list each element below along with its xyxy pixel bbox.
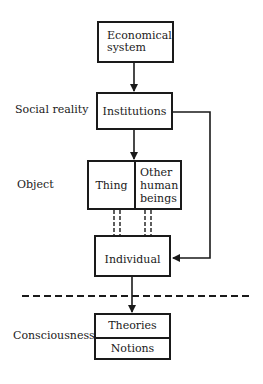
node-individual-label: Individual <box>96 254 169 266</box>
layer-label-consciousness: Consciousness <box>13 329 95 342</box>
node-consciousness-divider <box>96 337 169 339</box>
diagram-canvas: Social reality Object Consciousness Econ… <box>0 0 263 384</box>
node-economical-system-line2: system <box>107 42 172 54</box>
layer-label-object: Object <box>17 178 54 191</box>
node-theories-label: Theories <box>96 320 169 332</box>
node-thing-label: Thing <box>89 180 134 192</box>
node-institutions: Institutions <box>96 92 173 130</box>
node-other-human-beings-line2: human <box>140 179 178 192</box>
layer-label-social-reality: Social reality <box>15 103 88 116</box>
node-object-divider <box>134 162 136 208</box>
node-economical-system: Economical system <box>97 21 174 63</box>
node-other-human-beings-line1: Other <box>140 166 178 179</box>
node-object: Thing Other human beings <box>87 160 182 210</box>
node-other-human-beings-line3: beings <box>140 192 178 205</box>
node-individual: Individual <box>94 235 171 277</box>
node-notions-label: Notions <box>96 343 169 355</box>
node-consciousness: Theories Notions <box>94 313 171 360</box>
node-institutions-label: Institutions <box>98 106 171 118</box>
